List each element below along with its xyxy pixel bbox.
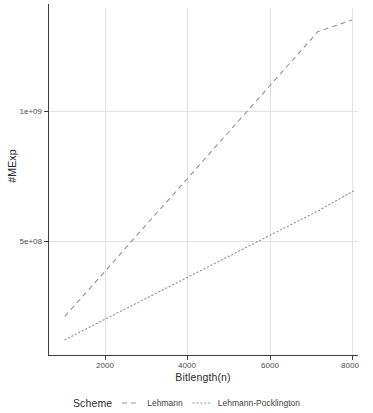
- legend-key-dotted-icon: [192, 398, 212, 408]
- series-line-lehmann: [65, 20, 352, 316]
- chart-figure: 1e+09 5e+08 2000 4000 6000 8000 Bitlengt…: [0, 0, 373, 413]
- chart-legend: Scheme Lehmann Lehmann-Pocklington: [0, 393, 373, 413]
- series-line-lehmann-pocklington: [65, 190, 355, 340]
- legend-item-lehmann-pocklington[interactable]: Lehmann-Pocklington: [192, 398, 300, 408]
- legend-key-dashed-icon: [121, 398, 141, 408]
- legend-title: Scheme: [73, 397, 112, 409]
- series-layer: [0, 0, 373, 413]
- legend-label-lehmann: Lehmann: [147, 398, 182, 408]
- legend-label-lehmann-pocklington: Lehmann-Pocklington: [218, 398, 300, 408]
- legend-item-lehmann[interactable]: Lehmann: [121, 398, 182, 408]
